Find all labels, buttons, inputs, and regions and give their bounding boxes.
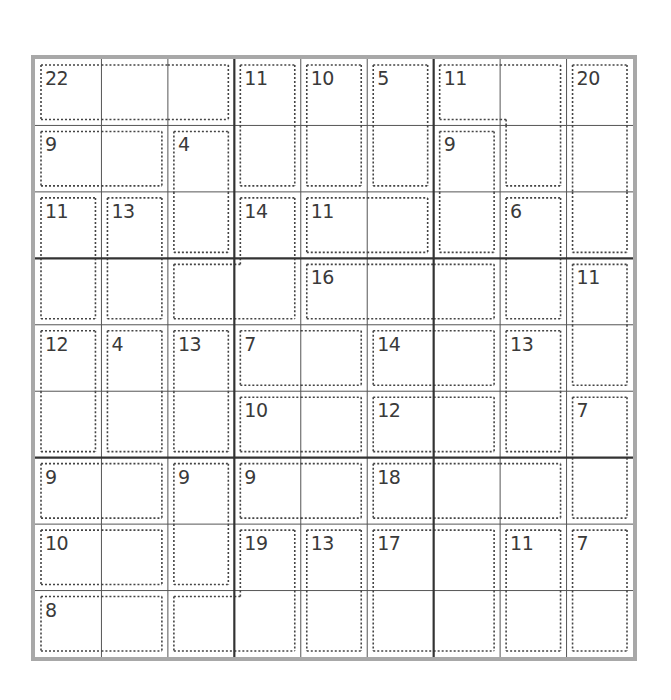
cell-r6c2[interactable]	[101, 391, 167, 457]
cage-sum: 9	[178, 468, 190, 487]
cell-r7c8[interactable]	[500, 458, 566, 524]
cell-r1c8[interactable]	[500, 59, 566, 125]
cage-sum: 12	[45, 335, 68, 354]
cage-sum: 18	[377, 468, 400, 487]
cell-r9c3[interactable]	[168, 591, 234, 657]
cage-sum: 11	[444, 69, 467, 88]
cage-sum: 13	[311, 534, 334, 553]
cell-r8c3[interactable]	[168, 524, 234, 590]
cell-r5c5[interactable]	[301, 325, 367, 391]
cell-r2c4[interactable]	[234, 125, 300, 191]
cell-r6c1[interactable]	[35, 391, 101, 457]
cage-sum: 16	[311, 268, 334, 287]
cage-sum: 13	[178, 335, 201, 354]
cage-sum: 8	[45, 601, 57, 620]
cell-r3c9[interactable]	[567, 192, 633, 258]
cage-sum: 7	[577, 401, 589, 420]
cell-r4c1[interactable]	[35, 258, 101, 324]
cage-sum: 7	[244, 335, 256, 354]
cell-r9c9[interactable]	[567, 591, 633, 657]
cell-r4c3[interactable]	[168, 258, 234, 324]
cage-sum: 22	[45, 69, 68, 88]
cage-sum: 11	[577, 268, 600, 287]
cell-r7c5[interactable]	[301, 458, 367, 524]
cage-sum: 13	[111, 202, 134, 221]
cage-sum: 9	[45, 468, 57, 487]
cell-r1c2[interactable]	[101, 59, 167, 125]
killer-sudoku-board: 2211105112094911131411616111241371413101…	[31, 55, 637, 661]
cell-r9c5[interactable]	[301, 591, 367, 657]
cage-sum: 7	[577, 534, 589, 553]
cell-r2c8[interactable]	[500, 125, 566, 191]
cage-sum: 6	[510, 202, 522, 221]
cell-r4c8[interactable]	[500, 258, 566, 324]
cage-sum: 4	[178, 135, 190, 154]
cell-r3c3[interactable]	[168, 192, 234, 258]
cell-r1c3[interactable]	[168, 59, 234, 125]
cell-r7c7[interactable]	[434, 458, 500, 524]
cell-r2c6[interactable]	[367, 125, 433, 191]
cell-r5c9[interactable]	[567, 325, 633, 391]
cell-r7c2[interactable]	[101, 458, 167, 524]
cell-r9c4[interactable]	[234, 591, 300, 657]
cage-sum: 4	[111, 335, 123, 354]
cell-r9c7[interactable]	[434, 591, 500, 657]
cell-r6c3[interactable]	[168, 391, 234, 457]
cage-sum: 11	[244, 69, 267, 88]
cell-r3c6[interactable]	[367, 192, 433, 258]
cage-sum: 10	[311, 69, 334, 88]
cell-r3c7[interactable]	[434, 192, 500, 258]
cage-sum: 11	[510, 534, 533, 553]
cell-r4c2[interactable]	[101, 258, 167, 324]
cage-sum: 10	[244, 401, 267, 420]
cage-sum: 10	[45, 534, 68, 553]
cell-r6c5[interactable]	[301, 391, 367, 457]
cage-sum: 13	[510, 335, 533, 354]
cell-r9c2[interactable]	[101, 591, 167, 657]
cell-r9c6[interactable]	[367, 591, 433, 657]
cell-r4c6[interactable]	[367, 258, 433, 324]
cell-r2c2[interactable]	[101, 125, 167, 191]
cage-sum: 20	[577, 69, 600, 88]
cell-r5c7[interactable]	[434, 325, 500, 391]
cage-sum: 11	[45, 202, 68, 221]
cell-r9c8[interactable]	[500, 591, 566, 657]
cell-r4c4[interactable]	[234, 258, 300, 324]
cell-r2c5[interactable]	[301, 125, 367, 191]
cage-sum: 12	[377, 401, 400, 420]
cell-r8c7[interactable]	[434, 524, 500, 590]
cage-sum: 14	[377, 335, 400, 354]
cage-sum: 14	[244, 202, 267, 221]
cage-sum: 19	[244, 534, 267, 553]
cell-r6c7[interactable]	[434, 391, 500, 457]
cell-r2c9[interactable]	[567, 125, 633, 191]
cell-r4c7[interactable]	[434, 258, 500, 324]
cage-sum: 9	[244, 468, 256, 487]
cage-sum: 11	[311, 202, 334, 221]
cage-sum: 9	[444, 135, 456, 154]
cage-sum: 5	[377, 69, 389, 88]
cell-r6c8[interactable]	[500, 391, 566, 457]
cage-sum: 9	[45, 135, 57, 154]
cell-r7c9[interactable]	[567, 458, 633, 524]
cage-sum: 17	[377, 534, 400, 553]
cell-r8c2[interactable]	[101, 524, 167, 590]
